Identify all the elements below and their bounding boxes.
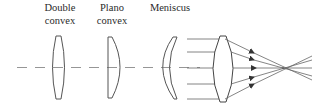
focal-point bbox=[282, 67, 284, 69]
converging-lens bbox=[213, 36, 233, 102]
refracted-rays bbox=[225, 39, 312, 99]
incoming-rays bbox=[187, 39, 219, 99]
lens-drawing bbox=[0, 0, 327, 107]
meniscus-lens bbox=[163, 37, 177, 99]
lens-diagram: Double convex Plano convex Meniscus bbox=[0, 0, 327, 107]
